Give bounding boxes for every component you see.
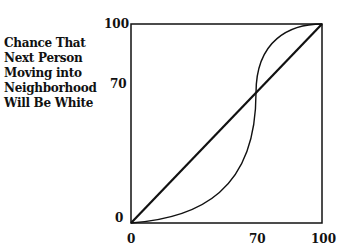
diagonal-line <box>131 24 322 223</box>
chart-plot <box>0 0 346 252</box>
